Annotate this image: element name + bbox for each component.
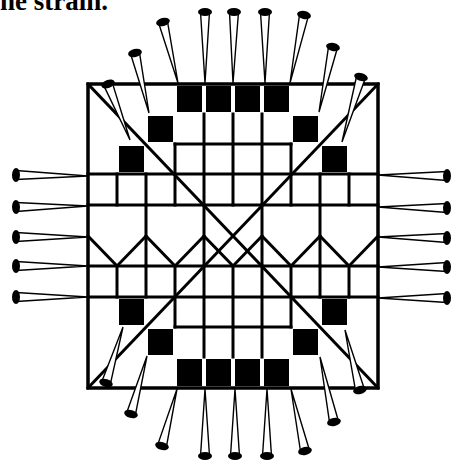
pin-icon: [320, 357, 342, 427]
pin-head: [198, 8, 212, 16]
pin-shaft: [378, 263, 447, 272]
pin-icon: [154, 389, 177, 452]
pin-icon: [260, 389, 274, 460]
pin-shaft: [16, 171, 88, 180]
pin-icon: [290, 10, 312, 83]
pin-shaft: [127, 356, 147, 415]
black-square: [264, 86, 289, 112]
pin-shaft: [378, 234, 447, 243]
black-square: [177, 359, 202, 386]
pin-shaft: [261, 12, 270, 83]
pin-icon: [227, 8, 241, 83]
pin-icon: [291, 389, 313, 456]
black-square: [148, 116, 173, 142]
black-square: [235, 359, 260, 386]
pin-icon: [12, 168, 88, 182]
black-square: [293, 329, 318, 355]
pin-shaft: [378, 204, 447, 213]
pin-shaft: [201, 12, 210, 83]
black-square: [119, 146, 144, 172]
pin-icon: [198, 8, 212, 83]
pin-shaft: [16, 233, 88, 242]
grid-line: [320, 236, 349, 266]
grid-line: [146, 236, 175, 266]
pin-head: [12, 290, 20, 304]
pin-shaft: [16, 203, 88, 212]
black-square: [177, 86, 202, 112]
pin-icon: [378, 201, 451, 215]
pin-shaft: [16, 293, 88, 302]
pin-shaft: [320, 357, 338, 423]
pin-shaft: [158, 389, 177, 447]
pin-icon: [258, 8, 272, 83]
pin-shaft: [201, 389, 210, 456]
pin-head: [258, 8, 272, 16]
pin-icon: [12, 290, 88, 304]
pin-icon: [378, 291, 451, 305]
pin-shaft: [231, 389, 240, 456]
pin-shaft: [290, 14, 308, 83]
black-square: [119, 299, 144, 325]
pin-icon: [127, 48, 149, 113]
pin-shaft: [159, 21, 178, 83]
pin-icon: [378, 231, 451, 245]
pin-icon: [228, 389, 242, 460]
grid-line: [117, 236, 146, 266]
pin-icon: [378, 260, 451, 274]
pin-icon: [378, 169, 451, 183]
pin-shaft: [319, 46, 337, 112]
pin-shaft: [378, 294, 447, 303]
pin-head: [12, 259, 20, 273]
black-square: [206, 359, 231, 386]
black-square: [293, 116, 318, 142]
pin-shaft: [16, 262, 88, 271]
black-square: [235, 86, 260, 112]
pin-icon: [98, 327, 123, 389]
pin-icon: [342, 71, 369, 142]
pin-head: [443, 260, 451, 274]
pin-icon: [345, 330, 368, 396]
pin-head: [260, 452, 274, 460]
pin-icon: [12, 230, 88, 244]
grid-line: [291, 236, 320, 266]
pin-shaft: [378, 172, 447, 181]
pin-shaft: [263, 389, 272, 456]
black-square: [206, 86, 231, 112]
grid-line: [175, 236, 204, 266]
pin-icon: [12, 259, 88, 273]
pin-head: [228, 452, 242, 460]
pin-icon: [12, 200, 88, 214]
pin-icon: [100, 78, 130, 140]
grid-pin-diagram: [0, 0, 466, 462]
pin-icon: [198, 389, 212, 460]
black-square: [322, 299, 347, 325]
pin-head: [443, 291, 451, 305]
grid-line: [262, 236, 291, 266]
pin-icon: [319, 42, 341, 112]
pin-shaft: [291, 389, 309, 452]
black-square: [264, 359, 289, 386]
pin-shaft: [230, 12, 239, 83]
pin-icon: [155, 16, 178, 83]
grid-lines: [88, 84, 378, 388]
grid-line: [88, 236, 117, 266]
pin-shaft: [345, 330, 364, 391]
grid-line: [349, 236, 378, 266]
pin-head: [12, 230, 20, 244]
pin-shaft: [104, 82, 130, 140]
black-square: [148, 329, 173, 355]
pin-head: [198, 452, 212, 460]
black-square: [322, 146, 347, 172]
